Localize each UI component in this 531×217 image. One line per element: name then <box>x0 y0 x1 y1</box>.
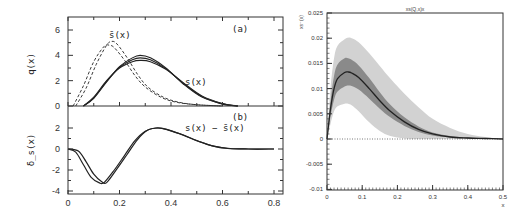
x-tick-label: 0.1 <box>358 194 367 200</box>
curve <box>83 60 238 106</box>
left-bottom-curves <box>68 128 274 184</box>
y-tick-label: 2 <box>55 76 60 86</box>
right-xlabel: x <box>502 202 505 208</box>
y-tick-label: 0.015 <box>308 60 324 66</box>
left-panel: 00.20.40.60.80246-4-202 (a) (b) s̄(x) s(… <box>26 17 283 208</box>
y-tick-label: 0.025 <box>308 10 324 16</box>
right-ylabel: xs⁻(x) <box>298 15 304 29</box>
curve <box>68 128 274 184</box>
y-tick-label: 0.005 <box>308 111 324 117</box>
panel-b-label: (b) <box>232 112 248 122</box>
y-tick-label: -0.01 <box>309 186 323 192</box>
y-tick-label: 0.02 <box>311 35 323 41</box>
y-tick-label: -2 <box>52 165 60 175</box>
y-tick-label: 4 <box>55 50 60 60</box>
figure: 00.20.40.60.80246-4-202 (a) (b) s̄(x) s(… <box>0 0 531 217</box>
y-tick-label: 0 <box>55 101 60 111</box>
left-top-ylabel: q(x) <box>26 53 36 75</box>
y-tick-label: 2 <box>55 123 60 133</box>
y-tick-label: 0 <box>320 136 324 142</box>
x-tick-label: 0.4 <box>464 194 473 200</box>
diff-annotation: s(x) − s̄(x) <box>185 123 245 133</box>
x-tick-label: 0.4 <box>165 198 178 208</box>
left-bottom-ylabel: δ_s(x) <box>26 134 36 167</box>
y-tick-label: 0 <box>55 144 60 154</box>
left-axes-ticks: 00.20.40.60.80246-4-202 <box>52 17 283 208</box>
x-tick-label: 0.5 <box>499 194 508 200</box>
right-title: xs(Q,x)x <box>406 6 425 12</box>
curve <box>83 58 238 106</box>
x-tick-label: 0 <box>325 194 329 200</box>
right-uncertainty-bands <box>327 38 503 139</box>
outer-band <box>327 38 503 139</box>
y-tick-label: 6 <box>55 25 60 35</box>
y-tick-label: -0.005 <box>306 161 324 167</box>
s-annotation: s(x) <box>185 77 207 87</box>
x-tick-label: 0.8 <box>268 198 281 208</box>
x-tick-label: 0.2 <box>393 194 402 200</box>
x-tick-label: 0 <box>65 198 70 208</box>
y-tick-label: 0.01 <box>311 86 323 92</box>
panel-a-label: (a) <box>232 24 248 34</box>
x-tick-label: 0.6 <box>216 198 229 208</box>
y-tick-label: -4 <box>52 186 60 196</box>
left-top-curves <box>73 41 238 106</box>
x-tick-label: 0.2 <box>113 198 126 208</box>
x-tick-label: 0.3 <box>428 194 437 200</box>
curve <box>68 128 274 184</box>
sbar-annotation: s̄(x) <box>109 30 131 40</box>
right-panel: 00.10.20.30.40.5-0.01-0.00500.0050.010.0… <box>298 6 508 208</box>
